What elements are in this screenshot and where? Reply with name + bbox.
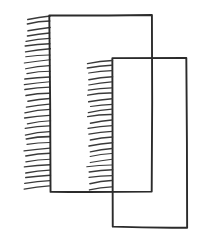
line-drawing-svg bbox=[0, 0, 204, 238]
figure-canvas bbox=[0, 0, 204, 238]
